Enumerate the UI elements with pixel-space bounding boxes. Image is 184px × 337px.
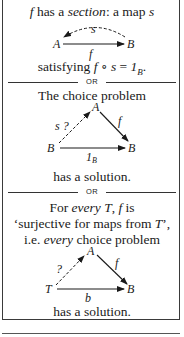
text: : a map [106, 4, 149, 19]
node-a: A [86, 244, 95, 258]
node-b: B [127, 282, 135, 296]
choice-problem-diagram: A B B s ? f 1B [0, 100, 184, 166]
s-symbol: s [149, 4, 154, 19]
node-b-right: B [128, 141, 136, 155]
or-divider: OR [8, 187, 176, 197]
f-arrow [100, 112, 128, 141]
text: has a [34, 4, 68, 19]
section-term: section [68, 4, 106, 19]
text: For [49, 200, 71, 215]
compose-symbol: ∘ [98, 59, 111, 74]
t-symbol: T [101, 200, 112, 215]
f-label: f [115, 256, 120, 270]
node-a: A [91, 100, 100, 114]
node-b: B [127, 37, 135, 51]
equals-symbol: = [116, 59, 130, 74]
question-label: ? [56, 262, 62, 276]
text: ‘surjective for maps from [14, 216, 155, 231]
text: satisfying [38, 59, 94, 74]
identity-label: 1B [86, 150, 97, 165]
text: . [143, 59, 146, 74]
bottom-rule [2, 333, 180, 334]
surjective-choice-diagram: A T B ? f b [0, 244, 184, 304]
every-term: every [72, 200, 101, 215]
node-a: A [52, 37, 61, 51]
divider-line [106, 82, 176, 83]
node-b-left: B [47, 141, 55, 155]
paragraph-line-2: ‘surjective for maps from T’, [0, 216, 184, 232]
has-solution-text: has a solution. [0, 304, 184, 320]
or-divider: OR [8, 77, 176, 87]
f-arrow [97, 255, 127, 284]
section-definition-line: f has a section: a map s [0, 4, 184, 20]
identity-subscript: B [92, 156, 97, 165]
divider-line [106, 192, 176, 193]
b-label: b [85, 291, 91, 304]
node-t: T [45, 282, 53, 296]
s-question-label: s ? [55, 119, 69, 133]
has-solution-text: has a solution. [0, 169, 184, 185]
s-label: s [91, 22, 96, 36]
paragraph-line-1: For every T, f is [0, 200, 184, 216]
text: ’, [162, 216, 170, 231]
text: is [122, 200, 134, 215]
f-label: f [118, 114, 123, 128]
